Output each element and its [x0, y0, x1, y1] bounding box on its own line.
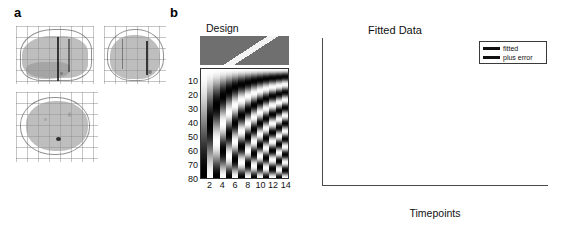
design-matrix-column [282, 69, 288, 178]
design-x-tick: 10 [255, 180, 265, 190]
design-y-tick: 60 [181, 146, 198, 156]
legend-label-plus-error: plus error [503, 53, 533, 62]
design-y-axis-ticks: 1020304050607080 [178, 68, 198, 179]
legend-label-fitted: fitted [503, 44, 518, 53]
coronal-brain-blob [110, 35, 160, 79]
design-diagonal-band [200, 36, 289, 65]
sagittal-temporal-blob [26, 62, 70, 79]
sagittal-speck [60, 72, 63, 75]
sagittal-activation-band-1 [57, 37, 59, 81]
legend-swatch-plus-error [483, 56, 500, 59]
axial-speck-1 [68, 112, 71, 117]
fitted-data-legend: fitted plus error [479, 41, 547, 64]
design-y-tick: 50 [181, 132, 198, 142]
design-y-tick: 40 [181, 118, 198, 128]
design-y-tick: 10 [181, 76, 198, 86]
sagittal-view [16, 26, 94, 84]
legend-row-plus-error: plus error [483, 53, 543, 62]
design-x-tick: 2 [207, 180, 212, 190]
panel-label-b: b [170, 5, 178, 20]
design-x-tick: 8 [245, 180, 250, 190]
panel-label-a: a [14, 5, 21, 20]
axial-brain-blob [26, 101, 88, 151]
design-y-tick: 70 [181, 160, 198, 170]
design-title: Design [206, 22, 239, 34]
fitted-x-axis-label: Timepoints [410, 207, 461, 219]
coronal-view [104, 26, 166, 84]
axial-activation-focus [56, 137, 61, 141]
axial-view [16, 92, 98, 162]
coronal-activation-band-2 [122, 39, 123, 69]
design-x-tick: 12 [268, 180, 278, 190]
figure-canvas: a b Design 1020304050607080 2468101214 F… [0, 0, 565, 230]
sagittal-activation-band-2 [68, 39, 70, 72]
design-x-tick: 4 [220, 180, 225, 190]
design-y-tick: 30 [181, 104, 198, 114]
design-y-tick: 80 [181, 174, 198, 184]
design-x-tick: 6 [232, 180, 237, 190]
design-matrix-heatmap [200, 68, 289, 179]
coronal-speck [148, 70, 152, 74]
axial-speck-2 [44, 118, 47, 121]
fitted-y-axis-ticks [292, 38, 320, 186]
fitted-x-axis-ticks [322, 191, 548, 205]
fitted-data-title: Fitted Data [368, 24, 422, 36]
design-x-tick: 14 [281, 180, 291, 190]
design-y-tick: 20 [181, 90, 198, 100]
design-top-strip [200, 36, 289, 65]
design-x-axis-ticks: 2468101214 [197, 180, 293, 192]
legend-row-fitted: fitted [483, 44, 543, 53]
legend-swatch-fitted [483, 47, 500, 50]
